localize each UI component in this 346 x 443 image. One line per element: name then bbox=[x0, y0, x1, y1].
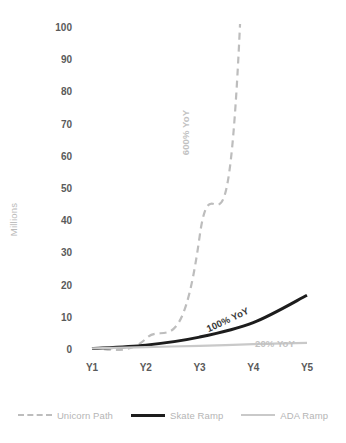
legend-item-label: ADA Ramp bbox=[280, 410, 328, 421]
annotation-unicorn-growth: 600% YoY bbox=[180, 110, 191, 155]
chart-legend: Unicorn PathSkate RampADA Ramp bbox=[0, 404, 346, 426]
series-line-unicorn-path bbox=[92, 0, 307, 350]
annotation-ada-growth: 20% YoY bbox=[255, 338, 295, 349]
legend-item-ada-ramp[interactable]: ADA Ramp bbox=[241, 410, 328, 421]
plot-area bbox=[0, 0, 346, 443]
solid-black-line-icon bbox=[131, 414, 165, 417]
solid-lightgray-line-icon bbox=[241, 414, 275, 416]
legend-item-label: Skate Ramp bbox=[170, 410, 223, 421]
legend-item-unicorn-path[interactable]: Unicorn Path bbox=[18, 410, 113, 421]
legend-item-label: Unicorn Path bbox=[57, 410, 113, 421]
legend-item-skate-ramp[interactable]: Skate Ramp bbox=[131, 410, 223, 421]
line-chart: Millions 1009080706050403020100 Y1Y2Y3Y4… bbox=[0, 0, 346, 443]
dashed-gray-line-icon bbox=[18, 414, 52, 416]
